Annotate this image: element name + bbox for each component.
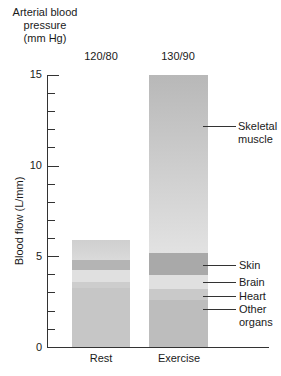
y-minor-tick bbox=[47, 111, 55, 112]
callout-skin: Skin bbox=[239, 259, 260, 272]
y-minor-tick bbox=[47, 329, 55, 330]
y-major-tick bbox=[47, 166, 59, 167]
y-axis-label: Blood flow (L/mm) bbox=[13, 176, 25, 266]
y-minor-tick bbox=[47, 292, 55, 293]
exercise-segment-brain bbox=[149, 275, 208, 289]
y-tick-label-0: 0 bbox=[22, 341, 42, 353]
y-minor-tick bbox=[47, 184, 55, 185]
y-minor-tick bbox=[47, 202, 55, 203]
exercise-segment-other-organs bbox=[149, 300, 208, 347]
y-minor-tick bbox=[47, 93, 55, 94]
rest-segment-brain bbox=[72, 270, 130, 282]
callout-brain: Brain bbox=[239, 276, 265, 289]
exercise-segment-heart bbox=[149, 289, 208, 300]
pressure-header-line1: Arterial blood bbox=[2, 6, 88, 19]
pressure-header: Arterial blood pressure (mm Hg) bbox=[2, 6, 88, 45]
y-minor-tick bbox=[47, 238, 55, 239]
y-tick-label-5: 5 bbox=[22, 250, 42, 262]
exercise-segment-skin bbox=[149, 253, 208, 275]
rest-segment-skeletal-muscle bbox=[72, 240, 130, 260]
callout-other-organs-line2: organs bbox=[239, 316, 273, 329]
bar-exercise bbox=[149, 75, 208, 347]
callout-line-skin bbox=[203, 265, 236, 266]
y-minor-tick bbox=[47, 147, 55, 148]
y-major-tick bbox=[47, 75, 59, 76]
callout-line-other-organs bbox=[203, 309, 236, 310]
callout-skeletal-muscle-line2: muscle bbox=[238, 133, 277, 146]
y-axis bbox=[47, 75, 48, 348]
bar-rest bbox=[72, 240, 130, 347]
pressure-header-line3: (mm Hg) bbox=[2, 32, 88, 45]
y-minor-tick bbox=[47, 274, 55, 275]
rest-segment-other-organs bbox=[72, 288, 130, 347]
y-tick-label-10: 10 bbox=[22, 159, 42, 171]
x-axis bbox=[47, 347, 269, 348]
x-label-exercise: Exercise bbox=[149, 352, 209, 364]
rest-segment-skin bbox=[72, 260, 130, 270]
callout-line-heart bbox=[203, 296, 236, 297]
y-major-tick bbox=[47, 256, 59, 257]
pressure-header-line2: pressure bbox=[2, 19, 88, 32]
exercise-pressure-value: 130/90 bbox=[153, 50, 203, 62]
rest-pressure-value: 120/80 bbox=[76, 50, 126, 62]
callout-skeletal-muscle-line1: Skeletal bbox=[238, 120, 277, 133]
callout-other-organs-line1: Other bbox=[239, 303, 273, 316]
exercise-segment-skeletal-muscle bbox=[149, 75, 208, 253]
y-tick-label-15: 15 bbox=[22, 68, 42, 80]
callout-line-skeletal-muscle bbox=[203, 126, 236, 127]
callout-skeletal-muscle: Skeletal muscle bbox=[238, 120, 277, 146]
y-minor-tick bbox=[47, 129, 55, 130]
callout-line-brain bbox=[203, 282, 236, 283]
callout-other-organs: Other organs bbox=[239, 303, 273, 329]
y-minor-tick bbox=[47, 220, 55, 221]
callout-heart: Heart bbox=[239, 290, 266, 303]
x-label-rest: Rest bbox=[76, 352, 126, 364]
y-minor-tick bbox=[47, 311, 55, 312]
